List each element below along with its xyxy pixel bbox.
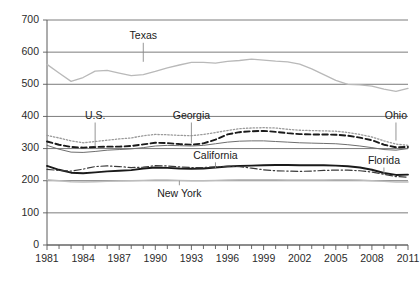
series-label-georgia: Georgia	[173, 109, 211, 121]
x-tick-label-2002: 2002	[288, 252, 312, 264]
series-line-texas	[47, 59, 408, 91]
x-tick-label-1984: 1984	[71, 252, 95, 264]
series-label-ohio: Ohio	[385, 109, 407, 121]
chart-canvas: 0100200300400500600700 19811984198719901…	[0, 0, 420, 281]
y-tick-label-500: 500	[21, 77, 39, 89]
line-chart: 0100200300400500600700 19811984198719901…	[0, 0, 420, 281]
x-tick-label-2011: 2011	[397, 252, 420, 264]
gridlines	[47, 20, 408, 245]
x-tick-label-1996: 1996	[216, 252, 240, 264]
series-label-new-york: New York	[157, 187, 202, 199]
y-tick-label-100: 100	[21, 206, 39, 218]
y-tick-label-600: 600	[21, 45, 39, 57]
x-tick-label-1999: 1999	[252, 252, 276, 264]
y-axis-tick-labels: 0100200300400500600700	[21, 13, 39, 250]
y-tick-label-200: 200	[21, 173, 39, 185]
y-tick-label-700: 700	[21, 13, 39, 25]
y-tick-label-400: 400	[21, 109, 39, 121]
series-annotations: TexasOhioGeorgiaU.S.FloridaCaliforniaNew…	[85, 29, 407, 199]
y-tick-label-300: 300	[21, 141, 39, 153]
x-axis-tick-labels: 1981198419871990199319961999200220052008…	[35, 252, 419, 264]
x-tick-label-1987: 1987	[108, 252, 132, 264]
series-label-texas: Texas	[130, 29, 157, 41]
series-label-u-s-: U.S.	[85, 109, 105, 121]
x-tick-label-2008: 2008	[360, 252, 384, 264]
axis-ticks	[43, 20, 408, 250]
x-tick-label-1990: 1990	[144, 252, 168, 264]
y-tick-label-0: 0	[33, 238, 39, 250]
series-label-california: California	[193, 149, 238, 161]
x-tick-label-1993: 1993	[180, 252, 204, 264]
x-tick-label-2005: 2005	[324, 252, 348, 264]
x-tick-label-1981: 1981	[35, 252, 59, 264]
series-label-florida: Florida	[368, 154, 400, 166]
